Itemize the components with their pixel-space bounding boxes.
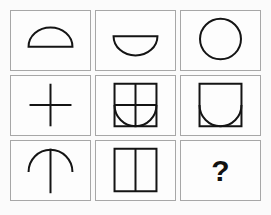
circle-icon bbox=[181, 11, 260, 70]
square-with-cross-and-bowl-icon bbox=[96, 76, 175, 135]
matrix-cell-row3-col1[interactable] bbox=[10, 140, 91, 201]
matrix-cell-row3-col3[interactable]: ? bbox=[180, 140, 261, 201]
vertical-line-with-dome-icon bbox=[11, 141, 90, 200]
matrix-grid: ? bbox=[10, 10, 261, 203]
matrix-cell-row1-col2[interactable] bbox=[95, 10, 176, 71]
matrix-reasoning-puzzle: ? bbox=[0, 0, 271, 215]
square-with-bowl-icon bbox=[181, 76, 260, 135]
matrix-cell-row1-col3[interactable] bbox=[180, 10, 261, 71]
square-with-vertical-divider-icon bbox=[96, 141, 175, 200]
question-mark-placeholder: ? bbox=[181, 141, 260, 200]
matrix-cell-row2-col3[interactable] bbox=[180, 75, 261, 136]
semicircle-bowl-icon bbox=[96, 11, 175, 70]
matrix-cell-row3-col2[interactable] bbox=[95, 140, 176, 201]
matrix-cell-row2-col1[interactable] bbox=[10, 75, 91, 136]
plus-cross-icon bbox=[11, 76, 90, 135]
matrix-cell-row1-col1[interactable] bbox=[10, 10, 91, 71]
matrix-cell-row2-col2[interactable] bbox=[95, 75, 176, 136]
semicircle-dome-icon bbox=[11, 11, 90, 70]
